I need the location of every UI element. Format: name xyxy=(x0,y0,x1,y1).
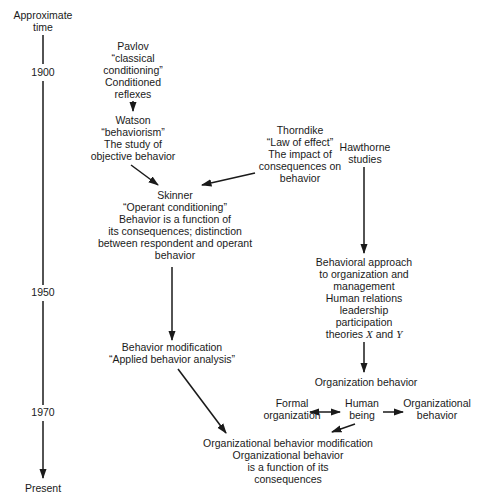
node-formal-organization: Formal organization xyxy=(263,397,320,421)
node-text: Organizational behavior xyxy=(233,449,344,461)
node-text: Organization behavior xyxy=(315,376,418,388)
timeline-end-label: Present xyxy=(25,482,61,494)
node-behavioral-approach: Behavioral approach to organization and … xyxy=(316,256,412,340)
node-thorndike: Thorndike “Law of effect” The impact of … xyxy=(259,124,341,184)
node-text: Thorndike xyxy=(277,124,324,136)
node-pavlov: Pavlov “classical conditioning” Conditio… xyxy=(103,40,163,100)
node-human-being: Human being xyxy=(345,397,379,421)
node-text: behavior xyxy=(155,249,196,261)
node-text: The impact of xyxy=(268,148,332,160)
node-text: to organization and xyxy=(319,268,408,280)
node-text: Organizational behavior modification xyxy=(203,437,373,449)
tick-1950: 1950 xyxy=(31,286,55,298)
node-text: Conditioned xyxy=(105,76,161,88)
node-obm: Organizational behavior modification Org… xyxy=(203,437,373,485)
node-text: Pavlov xyxy=(117,40,149,52)
tick-1970: 1970 xyxy=(31,406,55,418)
node-organization-behavior: Organization behavior xyxy=(315,376,418,388)
node-text: “behaviorism” xyxy=(101,126,165,138)
node-text: “Law of effect” xyxy=(267,136,334,148)
arrow-behavior-modification-to-obm xyxy=(178,369,226,433)
tick-1900: 1900 xyxy=(31,66,55,78)
node-text: Human relations xyxy=(326,292,402,304)
node-text: Hawthorne xyxy=(340,141,391,153)
node-text: between respondent and operant xyxy=(98,237,252,249)
arrow-watson-to-skinner xyxy=(131,165,158,185)
node-text: behavior xyxy=(280,172,321,184)
timeline-header-line2: time xyxy=(33,21,53,33)
node-text: reflexes xyxy=(115,88,152,100)
node-skinner: Skinner “Operant conditioning” Behavior … xyxy=(98,189,252,261)
node-text: Watson xyxy=(115,114,150,126)
node-text: consequences on xyxy=(259,160,341,172)
node-text: being xyxy=(349,409,375,421)
node-text-theories: theories X and Y xyxy=(326,328,404,340)
node-text: “Operant conditioning” xyxy=(123,201,227,213)
node-text: “Applied behavior analysis” xyxy=(109,353,236,365)
node-text: is a function of its xyxy=(247,461,328,473)
node-text: The study of xyxy=(104,138,162,150)
node-text: “classical xyxy=(111,52,154,64)
node-text: management xyxy=(333,280,394,292)
arrow-human-being-to-obm xyxy=(332,424,355,432)
node-watson: Watson “behaviorism” The study of object… xyxy=(91,114,176,162)
node-text: Behavior is a function of xyxy=(119,213,231,225)
node-text: Behavioral approach xyxy=(316,256,412,268)
node-text: its consequences; distinction xyxy=(108,225,242,237)
history-diagram: Approximate time 1900 1950 1970 Present … xyxy=(0,0,485,498)
node-text: Skinner xyxy=(157,189,193,201)
timeline: Approximate time 1900 1950 1970 Present xyxy=(14,9,73,494)
node-text: conditioning” xyxy=(103,64,163,76)
arrow-thorndike-to-skinner xyxy=(202,173,255,185)
node-text: Formal xyxy=(276,397,309,409)
node-hawthorne: Hawthorne studies xyxy=(340,141,391,165)
node-text: consequences xyxy=(254,473,322,485)
node-organizational-behavior: Organizational behavior xyxy=(403,397,471,421)
node-text: Organizational xyxy=(403,397,471,409)
node-text: Behavior modification xyxy=(122,341,223,353)
timeline-header-line1: Approximate xyxy=(14,9,73,21)
node-text: organization xyxy=(263,409,320,421)
node-text: objective behavior xyxy=(91,150,176,162)
node-text: studies xyxy=(348,153,381,165)
node-text: behavior xyxy=(417,409,458,421)
node-behavior-modification: Behavior modification “Applied behavior … xyxy=(109,341,236,365)
node-text: Human xyxy=(345,397,379,409)
node-text: leadership xyxy=(340,304,389,316)
node-text: participation xyxy=(336,316,393,328)
